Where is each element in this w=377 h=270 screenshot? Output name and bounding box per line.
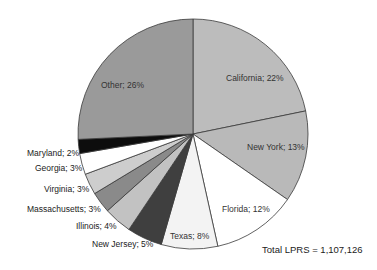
label-florida: Florida; 12% xyxy=(222,204,270,214)
label-georgia: Georgia; 3% xyxy=(35,163,82,173)
label-massachusetts: Massachusetts; 3% xyxy=(27,204,101,214)
label-maryland: Maryland; 2% xyxy=(27,148,79,158)
label-new-jersey: New Jersey; 5% xyxy=(92,239,153,249)
label-virginia: Virginia; 3% xyxy=(44,184,89,194)
label-illinois: Illinois; 4% xyxy=(76,221,117,231)
label-california: California; 22% xyxy=(226,73,284,83)
total-annotation: Total LPRS = 1,107,126 xyxy=(262,244,363,255)
label-other: Other; 26% xyxy=(101,80,144,90)
label-texas: Texas; 8% xyxy=(170,231,209,241)
pie-chart xyxy=(0,0,377,270)
label-new-york: New York; 13% xyxy=(247,142,305,152)
